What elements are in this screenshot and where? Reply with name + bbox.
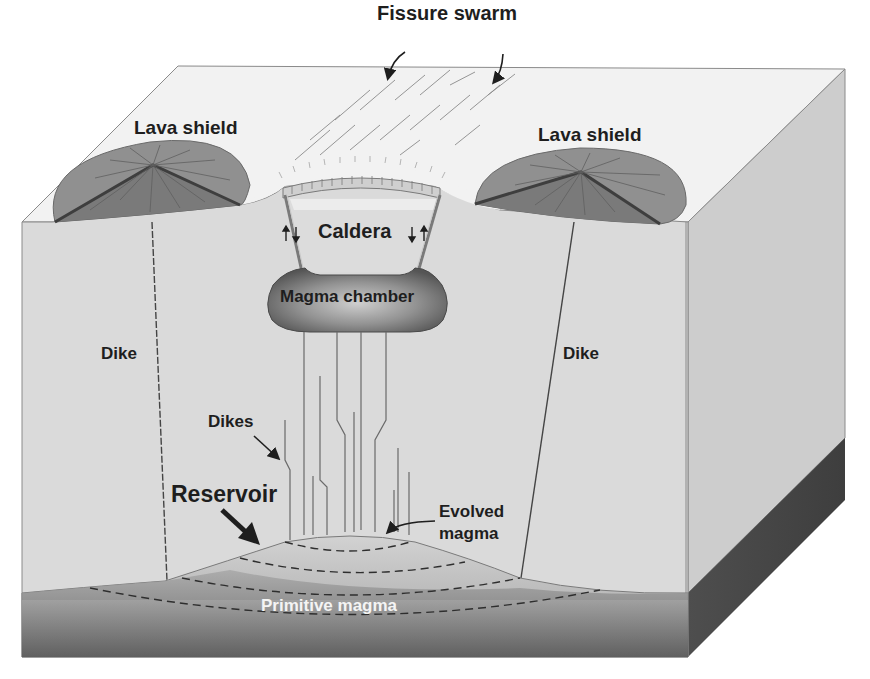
label-dike-right: Dike xyxy=(563,344,599,364)
label-magma-chamber: Magma chamber xyxy=(280,287,414,307)
label-lava-shield-right: Lava shield xyxy=(538,124,642,146)
label-evolved-line1: Evolved xyxy=(439,501,504,523)
label-evolved-magma: Evolved magma xyxy=(439,501,504,545)
volcano-block-diagram xyxy=(0,0,870,679)
label-primitive-magma: Primitive magma xyxy=(261,596,397,616)
label-caldera: Caldera xyxy=(318,220,391,243)
label-dike-left: Dike xyxy=(101,344,137,364)
label-evolved-line2: magma xyxy=(439,523,504,545)
label-reservoir: Reservoir xyxy=(171,481,277,508)
label-lava-shield-left: Lava shield xyxy=(134,117,238,139)
label-dikes: Dikes xyxy=(208,412,253,432)
label-fissure-swarm: Fissure swarm xyxy=(377,2,517,25)
caldera-top xyxy=(290,199,438,210)
